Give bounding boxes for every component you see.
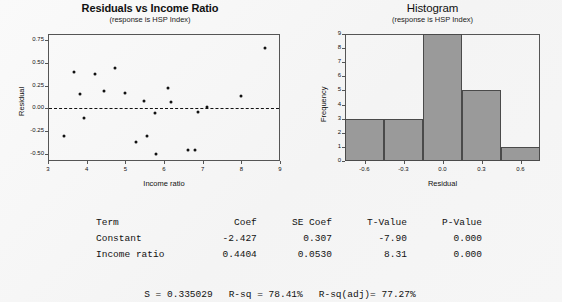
histogram-y-tick [342, 62, 345, 63]
histogram-x-tick-label: 0.3 [470, 166, 494, 172]
histogram-y-axis-title: Frequency [319, 86, 328, 121]
scatter-y-tick-label: 0.75 [24, 36, 44, 42]
scatter-data-point [155, 152, 158, 155]
scatter-x-tick [203, 161, 204, 164]
histogram-y-tick-label: 2 [327, 129, 341, 135]
histogram-bar [384, 119, 423, 161]
histogram-y-tick [342, 105, 345, 106]
histogram-x-tick [482, 161, 483, 164]
scatter-plot-area: -0.50-0.250.000.250.500.753456789Income … [0, 2, 300, 202]
r-squared-adjusted: R-sq(adj)= 77.27% [319, 287, 416, 302]
scatter-x-tick-label: 4 [77, 166, 97, 172]
scatter-y-tick [45, 63, 48, 64]
histogram-x-tick [521, 161, 522, 164]
histogram-y-tick-label: 5 [327, 86, 341, 92]
scatter-data-point [135, 140, 138, 143]
histogram-y-tick-label: 9 [327, 30, 341, 36]
scatter-data-point [264, 46, 267, 49]
r-squared: R-sq = 78.41% [229, 287, 303, 302]
scatter-data-point [78, 92, 81, 95]
header-se-coef: SE Coef [271, 215, 346, 231]
scatter-x-tick-label: 9 [270, 166, 290, 172]
histogram-x-tick [404, 161, 405, 164]
cell-term: Income ratio [96, 247, 197, 263]
cell-coef: 0.4404 [197, 247, 271, 263]
histogram-y-tick-label: 8 [327, 44, 341, 50]
scatter-x-tick [280, 161, 281, 164]
histogram-y-tick-label: 4 [327, 101, 341, 107]
s-statistic: S = 0.335029 [144, 287, 212, 302]
scatter-data-point [113, 67, 116, 70]
cell-coef: -2.427 [197, 231, 271, 247]
cell-se-coef: 0.0530 [271, 247, 346, 263]
histogram-x-tick-label: 0.6 [509, 166, 533, 172]
histogram-bar [501, 147, 540, 161]
scatter-data-point [103, 90, 106, 93]
scatter-data-point [186, 149, 189, 152]
scatter-x-axis-title: Income ratio [48, 179, 280, 188]
scatter-x-tick [48, 161, 49, 164]
histogram-y-tick [342, 48, 345, 49]
scatter-x-tick [125, 161, 126, 164]
histogram-x-tick-label: -0.3 [392, 166, 416, 172]
scatter-data-point [193, 149, 196, 152]
regression-statistics-block: Term Coef SE Coef T-Value P-Value Consta… [96, 215, 496, 302]
scatter-data-point [73, 71, 76, 74]
header-term: Term [96, 215, 197, 231]
scatter-data-point [142, 100, 145, 103]
scatter-y-tick-label: 0.25 [24, 82, 44, 88]
histogram-y-tick-label: 1 [327, 143, 341, 149]
histogram-bar [345, 119, 384, 161]
scatter-y-tick [45, 131, 48, 132]
model-summary-row: S = 0.335029R-sq = 78.41%R-sq(adj)= 77.2… [96, 271, 496, 302]
histogram-x-tick-label: -0.6 [353, 166, 377, 172]
histogram-y-tick-label: 6 [327, 72, 341, 78]
histogram-bar [423, 34, 462, 161]
scatter-y-tick-label: -0.25 [24, 127, 44, 133]
scatter-x-tick-label: 3 [38, 166, 58, 172]
scatter-data-point [63, 134, 66, 137]
residuals-vs-income-ratio-chart: Residuals vs Income Ratio (response is H… [0, 2, 300, 202]
header-t-value: T-Value [346, 215, 421, 231]
scatter-data-point [169, 101, 172, 104]
header-p-value: P-Value [421, 215, 496, 231]
histogram-bar [462, 90, 501, 161]
histogram-y-tick [342, 34, 345, 35]
scatter-y-tick-label: 0.50 [24, 59, 44, 65]
scatter-y-tick [45, 154, 48, 155]
scatter-y-axis-title: Residual [17, 86, 26, 115]
cell-term: Constant [96, 231, 197, 247]
cell-t-value: -7.90 [346, 231, 421, 247]
histogram-y-tick [342, 161, 345, 162]
histogram-x-tick-label: 0.0 [431, 166, 455, 172]
histogram-plot-area: 0123456789-0.6-0.30.00.30.6ResidualFrequ… [305, 2, 560, 202]
scatter-data-point [153, 111, 156, 114]
histogram-y-tick-label: 0 [327, 157, 341, 163]
scatter-x-tick-label: 6 [154, 166, 174, 172]
header-coef: Coef [197, 215, 271, 231]
scatter-data-point [94, 72, 97, 75]
cell-se-coef: 0.307 [271, 231, 346, 247]
scatter-x-tick [241, 161, 242, 164]
coefficients-table: Term Coef SE Coef T-Value P-Value Consta… [96, 215, 496, 263]
scatter-data-point [197, 111, 200, 114]
scatter-y-tick [45, 108, 48, 109]
scatter-data-point [124, 91, 127, 94]
scatter-y-tick [45, 40, 48, 41]
scatter-y-tick [45, 86, 48, 87]
minitab-output-page: Residuals vs Income Ratio (response is H… [0, 0, 562, 302]
scatter-data-point [82, 117, 85, 120]
histogram-y-tick-label: 3 [327, 115, 341, 121]
histogram-y-tick [342, 90, 345, 91]
histogram-y-tick [342, 76, 345, 77]
table-row: Income ratio0.44040.05308.310.000 [96, 247, 496, 263]
table-header-row: Term Coef SE Coef T-Value P-Value [96, 215, 496, 231]
scatter-data-point [240, 94, 243, 97]
scatter-x-tick-label: 7 [193, 166, 213, 172]
histogram-x-tick [443, 161, 444, 164]
residual-histogram-chart: Histogram (response is HSP Index) 012345… [305, 2, 560, 202]
histogram-x-tick [365, 161, 366, 164]
scatter-plot-frame [48, 34, 280, 161]
scatter-x-tick [164, 161, 165, 164]
cell-p-value: 0.000 [421, 231, 496, 247]
